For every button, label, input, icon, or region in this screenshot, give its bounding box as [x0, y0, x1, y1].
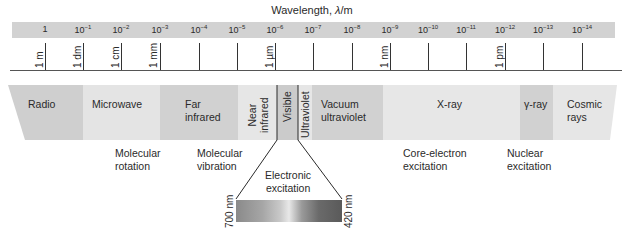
label-far-infrared: Farinfrared	[185, 98, 221, 124]
process-line2: excitation	[265, 182, 311, 195]
process-molecular-vibration: Molecularvibration	[197, 147, 243, 173]
visible-color-gradient	[236, 200, 342, 222]
process-line2: rotation	[115, 160, 161, 173]
label-near-infrared-line2: infrared	[258, 97, 270, 133]
label-cosmic-rays: Cosmicrays	[567, 98, 602, 124]
process-line1: Core-electron	[403, 147, 467, 160]
label-far-infrared-line1: Far	[185, 98, 221, 111]
process-nuclear-excitation: Nuclearexcitation	[507, 147, 551, 173]
region-x-ray	[383, 85, 520, 140]
region-microwave	[83, 85, 160, 140]
process-line1: Molecular	[197, 147, 243, 160]
process-line2: excitation	[507, 160, 551, 173]
region-radio	[8, 85, 83, 140]
process-molecular-rotation: Molecularrotation	[115, 147, 161, 173]
region-gamma-ray	[520, 85, 553, 140]
label-cosmic-rays-line1: Cosmic	[567, 98, 602, 111]
label-far-infrared-line2: infrared	[185, 111, 221, 124]
label-near-infrared: Nearinfrared	[246, 97, 270, 133]
label-microwave: Microwave	[92, 98, 142, 111]
label-vacuum-ultraviolet-line2: ultraviolet	[321, 111, 366, 124]
process-line2: excitation	[403, 160, 467, 173]
label-420nm: 420 nm	[343, 195, 354, 228]
process-line1: Electronic	[265, 169, 311, 182]
label-near-infrared-line1: Near	[246, 97, 258, 133]
process-line1: Molecular	[115, 147, 161, 160]
label-vacuum-ultraviolet: Vacuumultraviolet	[321, 98, 366, 124]
label-gamma-ray: γ-ray	[524, 98, 547, 111]
process-line1: Nuclear	[507, 147, 551, 160]
process-line2: vibration	[197, 160, 243, 173]
label-radio: Radio	[28, 98, 55, 111]
process-core-electron-excitation: Core-electronexcitation	[403, 147, 467, 173]
label-700nm: 700 nm	[224, 195, 235, 228]
label-x-ray: X-ray	[437, 98, 462, 111]
label-visible: Visible	[281, 91, 293, 122]
label-ultraviolet: Ultraviolet	[299, 91, 311, 138]
process-electronic-excitation: Electronicexcitation	[265, 169, 311, 195]
label-cosmic-rays-line2: rays	[567, 111, 602, 124]
label-vacuum-ultraviolet-line1: Vacuum	[321, 98, 366, 111]
